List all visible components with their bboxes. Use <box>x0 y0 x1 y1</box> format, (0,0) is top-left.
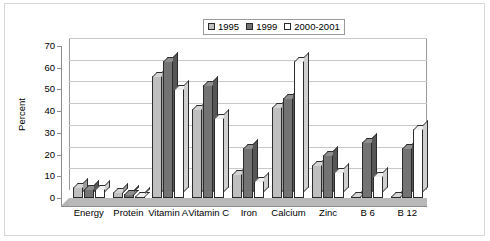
bar-1999-iron <box>243 148 253 198</box>
bar-rect <box>334 172 344 198</box>
y-tick-mark <box>57 68 62 69</box>
y-tick-mark <box>57 155 62 156</box>
y-tick-mark <box>57 198 62 199</box>
legend-label-1995: 1995 <box>218 21 239 32</box>
bar-rect <box>135 196 145 198</box>
bar-1999-b12 <box>402 148 412 198</box>
bar-rect <box>95 189 105 198</box>
y-tick-label: 70 <box>21 40 55 51</box>
bar-rect <box>152 76 162 198</box>
y-tick-mark <box>57 46 62 47</box>
bar-1999-b6 <box>362 142 372 198</box>
bar-1995-vitaminc <box>192 109 202 198</box>
y-tick-label: 0 <box>21 192 55 203</box>
bar-rect <box>294 61 304 198</box>
bar-rect <box>214 118 224 198</box>
bar-rect <box>232 174 242 198</box>
legend-swatch-2000-2001 <box>284 23 291 30</box>
x-axis-category-labels: EnergyProteinVitamin AVitamin CIronCalci… <box>69 207 427 218</box>
bar-rect <box>243 148 253 198</box>
bar-2000-2001-protein <box>135 196 145 198</box>
bar-top-face <box>135 192 150 197</box>
legend-item-2000-2001: 2000-2001 <box>284 21 339 32</box>
y-tick-label: 30 <box>21 127 55 138</box>
y-tick-label: 50 <box>21 83 55 94</box>
bar-1995-protein <box>113 192 123 199</box>
plot-floor <box>69 198 427 207</box>
plot-floor-edge <box>61 198 69 206</box>
bar-rect <box>163 61 173 198</box>
bar-rect <box>391 196 401 198</box>
bar-2000-2001-calcium <box>294 61 304 198</box>
bar-1995-zinc <box>312 165 322 198</box>
legend-swatch-1999 <box>246 23 253 30</box>
bar-group <box>308 46 348 198</box>
legend-swatch-1995 <box>208 23 215 30</box>
bar-1995-calcium <box>272 107 282 198</box>
bar-2000-2001-vitaminc <box>214 118 224 198</box>
bar-rect <box>203 85 213 198</box>
bar-2000-2001-iron <box>254 181 264 198</box>
x-tick-label: Zinc <box>308 207 348 218</box>
x-tick-label: Iron <box>229 207 269 218</box>
bar-rect <box>323 155 333 198</box>
bar-group <box>69 46 109 198</box>
bar-2000-2001-energy <box>95 189 105 198</box>
bar-rect <box>192 109 202 198</box>
legend-label-1999: 1999 <box>256 21 277 32</box>
bar-group <box>347 46 387 198</box>
bar-rect <box>312 165 322 198</box>
legend-label-2000-2001: 2000-2001 <box>294 21 339 32</box>
bar-rect <box>73 187 83 198</box>
x-tick-label: Protein <box>109 207 149 218</box>
x-tick-label: Vitamin C <box>188 207 229 218</box>
bar-group <box>149 46 189 198</box>
bar-side-face <box>423 120 428 192</box>
chart-legend: 1995 1999 2000-2001 <box>203 19 345 35</box>
bar-group <box>188 46 228 198</box>
bar-rect <box>362 142 372 198</box>
y-tick-label: 20 <box>21 149 55 160</box>
bar-1999-energy <box>84 189 94 198</box>
x-tick-label: Energy <box>69 207 109 218</box>
bar-group <box>387 46 427 198</box>
plot-area: 706050403020100 <box>61 46 419 198</box>
bar-group <box>109 46 149 198</box>
y-tick-label: 60 <box>21 62 55 73</box>
y-tick-label: 40 <box>21 105 55 116</box>
bar-rect <box>402 148 412 198</box>
y-tick-mark <box>57 89 62 90</box>
bar-2000-2001-vitamina <box>174 89 184 198</box>
y-tick-mark <box>57 176 62 177</box>
x-tick-label: B 12 <box>387 207 427 218</box>
bar-1995-vitamina <box>152 76 162 198</box>
bar-1995-iron <box>232 174 242 198</box>
bar-1999-vitaminc <box>203 85 213 198</box>
y-tick-label: 10 <box>21 170 55 181</box>
y-tick-mark <box>57 111 62 112</box>
legend-item-1999: 1999 <box>246 21 277 32</box>
bar-rect <box>351 196 361 198</box>
bar-1999-protein <box>124 194 134 198</box>
bar-groups <box>69 46 427 198</box>
bar-2000-2001-b12 <box>413 129 423 198</box>
bar-1995-energy <box>73 187 83 198</box>
legend-item-1995: 1995 <box>208 21 239 32</box>
bar-group <box>268 46 308 198</box>
y-tick-mark <box>57 133 62 134</box>
bar-rect <box>413 129 423 198</box>
bar-2000-2001-zinc <box>334 172 344 198</box>
bar-rect <box>113 192 123 199</box>
bar-rect <box>84 189 94 198</box>
gridline <box>69 38 427 39</box>
bar-1995-b6 <box>351 196 361 198</box>
bar-1999-vitamina <box>163 61 173 198</box>
x-tick-label: B 6 <box>348 207 388 218</box>
bar-rect <box>254 181 264 198</box>
chart-container: 1995 1999 2000-2001 Percent 706050403020… <box>4 3 485 236</box>
bar-2000-2001-b6 <box>373 176 383 198</box>
bar-rect <box>174 89 184 198</box>
bar-rect <box>272 107 282 198</box>
bar-rect <box>124 194 134 198</box>
bar-rect <box>283 98 293 198</box>
